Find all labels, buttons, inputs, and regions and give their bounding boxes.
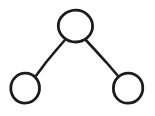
edge-root-to-left-child bbox=[36, 41, 64, 76]
edge-layer bbox=[36, 40, 117, 76]
node-left-child[interactable] bbox=[11, 73, 40, 103]
graph-canvas bbox=[0, 0, 155, 116]
edge-root-to-right-child bbox=[86, 40, 117, 75]
tree-diagram: Tree graph with three nodes bbox=[0, 0, 155, 116]
node-layer bbox=[11, 10, 143, 103]
node-root[interactable] bbox=[58, 10, 92, 42]
node-right-child[interactable] bbox=[113, 73, 142, 103]
